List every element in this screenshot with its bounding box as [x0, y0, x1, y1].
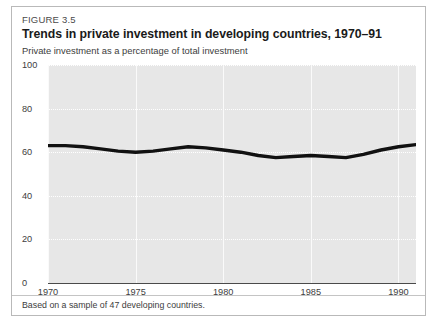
series-line-private-investment — [48, 145, 416, 158]
y-tick-label-80: 80 — [22, 104, 46, 114]
figure-number: FIGURE 3.5 — [22, 14, 415, 26]
y-tick-label-40: 40 — [22, 191, 46, 201]
figure-header: FIGURE 3.5 Trends in private investment … — [12, 7, 425, 57]
figure-footnote: Based on a sample of 47 developing count… — [22, 300, 205, 311]
x-axis-line — [48, 283, 416, 284]
x-tick-label-1970: 1970 — [38, 287, 58, 298]
chart-plot-container: 020406080100 19701975198019851990 — [22, 65, 416, 291]
series-line-chart — [48, 65, 416, 283]
y-tick-label-60: 60 — [22, 147, 46, 157]
figure-card: FIGURE 3.5 Trends in private investment … — [11, 6, 426, 316]
figure-subtitle: Private investment as a percentage of to… — [22, 45, 415, 57]
x-tick-label-1975: 1975 — [125, 287, 145, 298]
x-tick-label-1985: 1985 — [301, 287, 321, 298]
y-tick-label-20: 20 — [22, 234, 46, 244]
y-tick-label-100: 100 — [22, 60, 46, 70]
x-tick-label-1980: 1980 — [213, 287, 233, 298]
chart-plot-area — [48, 65, 416, 283]
x-tick-label-1990: 1990 — [388, 287, 408, 298]
figure-title: Trends in private investment in developi… — [22, 27, 415, 42]
footnote-divider — [12, 295, 425, 296]
